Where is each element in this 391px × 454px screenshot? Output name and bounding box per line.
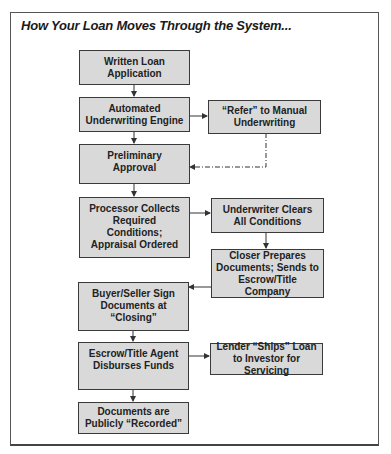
node-closer-prepares: Closer Prepares Documents; Sends to Escr… [211,249,324,298]
node-escrow-disburses: Escrow/Title Agent Disburses Funds [78,342,189,390]
node-label: Lender “Ships” Loan to Investor for Serv… [211,341,322,377]
node-preliminary-approval: Preliminary Approval [79,144,190,184]
node-refer-manual: “Refer” to Manual Underwriting [208,100,321,134]
node-buyer-seller-sign: Buyer/Seller Sign Documents at “Closing” [78,282,189,331]
node-underwriter-clears: Underwriter Clears All Conditions [211,198,324,233]
node-label: Automated Underwriting Engine [80,103,189,127]
node-automated-underwriting: Automated Underwriting Engine [79,97,190,132]
node-label: “Refer” to Manual Underwriting [209,105,320,129]
node-label: Buyer/Seller Sign Documents at “Closing” [79,288,188,324]
node-label: Processor Collects Required Conditions; … [80,203,189,251]
node-label: Documents are Publicly “Recorded” [79,406,188,430]
node-written-application: Written Loan Application [79,50,190,85]
node-label: Written Loan Application [88,56,181,80]
node-documents-recorded: Documents are Publicly “Recorded” [78,402,189,434]
node-label: Underwriter Clears All Conditions [212,204,323,228]
node-label: Closer Prepares Documents; Sends to Escr… [212,250,323,298]
node-processor-collects: Processor Collects Required Conditions; … [79,197,190,258]
node-label: Escrow/Title Agent Disburses Funds [79,348,188,372]
diagram-title: How Your Loan Moves Through the System..… [21,18,292,33]
node-label: Preliminary Approval [80,150,189,174]
node-lender-ships: Lender “Ships” Loan to Investor for Serv… [210,343,323,375]
